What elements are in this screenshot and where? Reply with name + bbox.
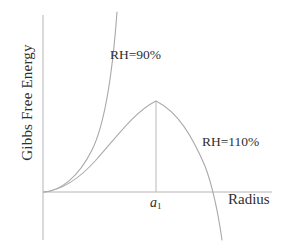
plot-area (0, 0, 288, 250)
x-axis-label: Radius (228, 192, 270, 207)
series-label-rh-90: RH=90% (110, 48, 161, 62)
y-axis-label: Gibbs Free Energy (20, 28, 35, 178)
curve-rh-90 (44, 12, 117, 192)
x-tick-label-a1-base: a (150, 195, 157, 210)
x-tick-label-a1: a1 (150, 196, 162, 210)
gibbs-free-energy-chart: Gibbs Free Energy Radius RH=90% RH=110% … (0, 0, 288, 250)
x-tick-label-a1-subscript: 1 (157, 201, 162, 211)
series-label-rh-110: RH=110% (202, 135, 259, 149)
curve-rh-110 (44, 101, 222, 240)
